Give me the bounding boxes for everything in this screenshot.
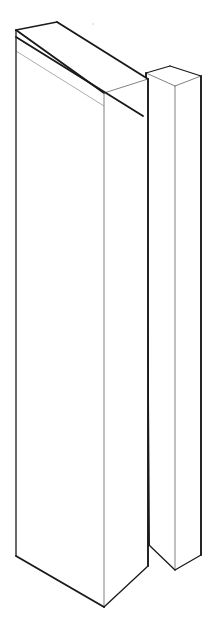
scan-artifact-speck — [92, 23, 94, 25]
front-slab-front-face — [16, 30, 104, 607]
slab-figure: Two parallel slabs in axonometric view — [0, 0, 217, 636]
rear-slab-right-face — [175, 76, 201, 570]
illustration-root: Two parallel slabs in axonometric view — [0, 0, 217, 636]
front-slab-right-face — [104, 79, 148, 607]
rear-slab-front-face — [146, 73, 175, 570]
rear-slab — [146, 66, 201, 570]
front-slab — [16, 22, 148, 607]
